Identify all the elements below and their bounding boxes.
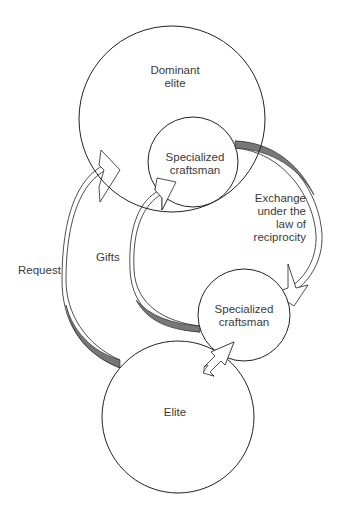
exchange-line-1: Exchange [246,192,306,205]
craftsman-bottom-line-2: craftsman [207,316,281,329]
request-label: Request [18,264,61,277]
craftsman-top-line-1: Specialized [158,151,232,164]
elite-label: Elite [150,406,200,419]
craftsman-top-label: Specialized craftsman [158,151,232,177]
craftsman-bottom-line-1: Specialized [207,303,281,316]
dominant-elite-line-2: elite [140,77,210,90]
exchange-label: Exchange under the law of reciprocity [246,192,306,244]
gifts-label: Gifts [96,251,120,264]
dominant-elite-line-1: Dominant [140,64,210,77]
craftsman-bottom-label: Specialized craftsman [207,303,281,329]
dominant-elite-label: Dominant elite [140,64,210,90]
exchange-line-2: under the [246,205,306,218]
craftsman-top-line-2: craftsman [158,164,232,177]
exchange-line-4: reciprocity [246,231,306,244]
exchange-line-3: law of [246,218,306,231]
